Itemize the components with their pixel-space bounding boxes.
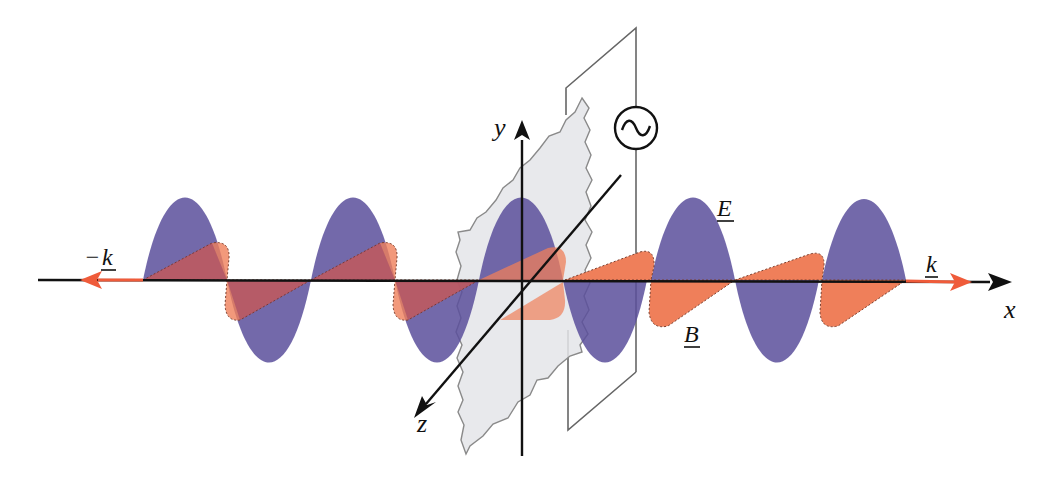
b-field-label: B xyxy=(684,321,699,347)
y-axis-label: y xyxy=(491,113,506,142)
k-backward-arrow xyxy=(80,271,143,289)
k-forward-arrow xyxy=(906,273,972,291)
k-forward-label: k xyxy=(926,251,937,277)
ac-source-icon xyxy=(615,107,657,149)
k-backward-sign: − xyxy=(84,244,100,270)
e-field-label: E xyxy=(716,195,732,221)
x-axis-label: x xyxy=(1003,295,1016,324)
em-wave-diagram: y z x E B k − k xyxy=(0,0,1057,484)
z-axis-label: z xyxy=(416,409,427,438)
k-backward-label: k xyxy=(102,244,113,270)
